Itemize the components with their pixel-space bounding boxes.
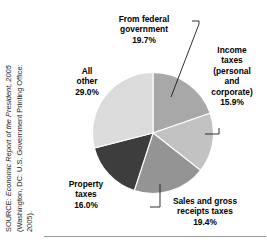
source-prefix: SOURCE:	[4, 196, 13, 232]
label-federal-line1: From federal	[96, 14, 192, 24]
bottom-divider-rule	[44, 236, 266, 237]
label-income-value: 15.9%	[200, 97, 264, 107]
source-line-2: (Washington, DC: U.S. Government Printin…	[15, 4, 26, 232]
label-income-line1: Income	[200, 45, 264, 55]
pie-chart-figure: SOURCE: Economic Report of the President…	[0, 0, 267, 250]
label-from-federal-government: From federal government 19.7%	[96, 14, 192, 45]
label-property-value: 16.0%	[50, 200, 122, 210]
label-income-line2: taxes	[200, 55, 264, 65]
label-all-other: All other 29.0%	[56, 66, 118, 97]
label-sales-value: 19.4%	[150, 217, 260, 227]
label-allother-value: 29.0%	[56, 87, 118, 97]
label-sales-and-gross-receipts-taxes: Sales and gross receipts taxes 19.4%	[150, 196, 260, 227]
label-property-line1: Property	[50, 179, 122, 189]
label-allother-line2: other	[56, 76, 118, 86]
label-income-line4: and	[200, 76, 264, 86]
source-title-italic: Economic Report of the President, 2005	[4, 65, 13, 196]
source-credit-block: SOURCE: Economic Report of the President…	[0, 0, 36, 250]
label-sales-line1: Sales and gross	[150, 196, 260, 206]
label-income-line5: corporate)	[200, 87, 264, 97]
source-line-3: 2005).	[25, 4, 36, 232]
source-line-1: SOURCE: Economic Report of the President…	[4, 4, 15, 232]
label-property-taxes: Property taxes 16.0%	[50, 179, 122, 210]
label-property-line2: taxes	[50, 189, 122, 199]
label-income-line3: (personal	[200, 66, 264, 76]
source-credit-text: SOURCE: Economic Report of the President…	[4, 4, 36, 232]
label-sales-line2: receipts taxes	[150, 206, 260, 216]
label-allother-line1: All	[56, 66, 118, 76]
label-income-taxes: Income taxes (personal and corporate) 15…	[200, 45, 264, 107]
label-federal-line2: government	[96, 24, 192, 34]
label-federal-value: 19.7%	[96, 35, 192, 45]
